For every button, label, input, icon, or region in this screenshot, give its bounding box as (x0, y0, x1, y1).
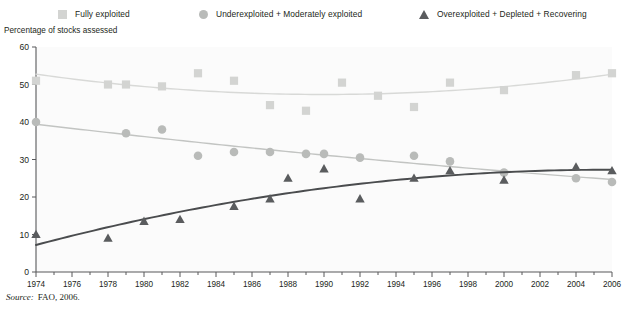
x-axis-tick-label: 2002 (531, 280, 550, 289)
data-point-square (104, 80, 112, 88)
y-axis-tick-label: 30 (19, 155, 29, 165)
x-axis-tick-label: 1978 (99, 280, 118, 289)
x-axis-tick-label: 1988 (279, 280, 298, 289)
y-axis-tick-label: 20 (19, 192, 29, 202)
data-point-square (374, 92, 382, 100)
data-point-circle (320, 150, 329, 159)
data-point-circle (230, 148, 239, 157)
x-axis-tick-label: 2004 (567, 280, 586, 289)
data-point-square (410, 103, 418, 111)
figure-container: Fully exploited Underexploited + Moderat… (0, 0, 632, 311)
y-axis-tick-label: 40 (19, 117, 29, 127)
source-label: Source: (6, 292, 34, 302)
x-axis-tick-label: 1990 (315, 280, 334, 289)
x-axis-tick-label: 1974 (27, 280, 46, 289)
data-point-circle (122, 129, 131, 138)
data-point-circle (158, 125, 167, 134)
data-point-square (446, 79, 454, 87)
data-point-square (230, 77, 238, 85)
data-point-square (32, 77, 40, 85)
data-point-square (158, 82, 166, 90)
data-point-circle (356, 153, 365, 162)
x-axis-tick-label: 2006 (603, 280, 622, 289)
data-point-square (500, 86, 508, 94)
x-axis-tick-label: 1982 (171, 280, 190, 289)
data-point-square (122, 80, 130, 88)
x-axis-tick-label: 1992 (351, 280, 370, 289)
data-point-circle (446, 157, 455, 166)
source-note: Source:FAO, 2006. (6, 292, 80, 302)
chart-plot-area: 0102030405060197419761978198019821984198… (0, 0, 632, 290)
y-axis-tick-label: 10 (19, 230, 29, 240)
x-axis-tick-label: 1998 (459, 280, 478, 289)
x-axis-tick-label: 1976 (63, 280, 82, 289)
data-point-circle (194, 151, 203, 160)
x-axis-tick-label: 1994 (387, 280, 406, 289)
data-point-square (194, 69, 202, 77)
x-axis-tick-label: 1984 (207, 280, 226, 289)
data-point-circle (266, 148, 275, 157)
x-axis-tick-label: 1980 (135, 280, 154, 289)
data-point-circle (32, 118, 41, 127)
data-point-square (572, 71, 580, 79)
data-point-circle (410, 151, 419, 160)
data-point-square (302, 107, 310, 115)
data-point-square (266, 101, 274, 109)
x-axis-tick-label: 1986 (243, 280, 262, 289)
data-point-circle (302, 150, 311, 159)
data-point-circle (608, 178, 617, 187)
x-axis-tick-label: 2000 (495, 280, 514, 289)
y-axis-tick-label: 50 (19, 80, 29, 90)
data-point-square (608, 69, 616, 77)
y-axis-tick-label: 0 (24, 267, 29, 277)
data-point-square (338, 79, 346, 87)
y-axis-tick-label: 60 (19, 42, 29, 52)
data-point-circle (572, 174, 581, 183)
source-text: FAO, 2006. (38, 292, 80, 302)
x-axis-tick-label: 1996 (423, 280, 442, 289)
